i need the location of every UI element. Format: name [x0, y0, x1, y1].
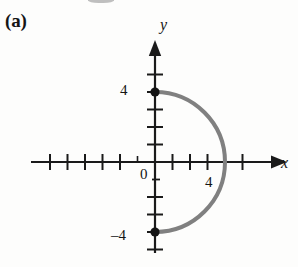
origin-label: 0: [140, 167, 148, 182]
x-tick-label-4: 4: [205, 175, 213, 190]
y-axis-arrowhead: [149, 40, 161, 56]
coordinate-plot: [0, 0, 298, 267]
endpoint-dot-upper: [150, 87, 159, 96]
x-axis-label: x: [281, 155, 288, 171]
figure-container: (a): [0, 0, 298, 267]
y-tick-label-negative-4: –4: [111, 228, 126, 243]
y-tick-label-4: 4: [120, 83, 128, 98]
y-axis-label: y: [160, 17, 167, 33]
endpoint-dot-lower: [150, 227, 159, 236]
